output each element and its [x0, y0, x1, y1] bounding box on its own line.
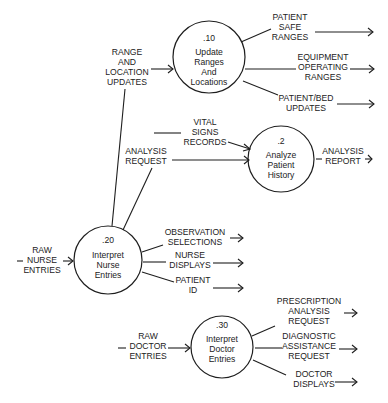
flow-label-line: OPERATING: [298, 62, 348, 72]
flow-label-line: DISPLAYS: [169, 260, 211, 270]
process-30-number: .30: [216, 320, 228, 330]
flow-label-line: AND: [118, 57, 136, 67]
flow-label-line: ANALYSIS: [125, 146, 167, 156]
flow-label-line: REQUEST: [125, 156, 167, 166]
flow-diagnostic-assistance-request: DIAGNOSTIC ASSISTANCE REQUEST: [255, 331, 357, 361]
flow-label-line: DOCTOR: [129, 341, 166, 351]
process-2-analyze-patient-history: .2 Analyze Patient History: [248, 126, 314, 192]
process-20-label-line: Entries: [95, 270, 122, 280]
data-flow-diagram: .10 Update Ranges And Locations .2 Analy…: [0, 0, 388, 403]
flow-range-location-updates: RANGE AND LOCATION UPDATES: [105, 47, 173, 226]
flow-label-line: SELECTIONS: [168, 237, 223, 247]
flow-prescription-analysis-request: PRESCRIPTION ANALYSIS REQUEST: [252, 296, 357, 336]
flow-label-line: RANGE: [112, 47, 143, 57]
flow-label-line: NURSE: [175, 250, 205, 260]
process-10-number: .10: [203, 33, 215, 43]
flow-label-line: ANALYSIS: [288, 306, 330, 316]
flow-label-line: REQUEST: [288, 351, 330, 361]
process-10-update-ranges: .10 Update Ranges And Locations: [173, 21, 245, 93]
flow-label-line: RAW: [138, 331, 159, 341]
flow-raw-nurse-entries: RAW NURSE ENTRIES: [17, 245, 73, 275]
flow-vital-signs-records: VITAL SIGNS RECORDS: [154, 117, 250, 151]
flow-label-line: ASSISTANCE: [282, 341, 336, 351]
flow-label-line: SIGNS: [192, 127, 219, 137]
flow-label-line: PRESCRIPTION: [277, 296, 341, 306]
flow-label-line: VITAL: [193, 117, 216, 127]
process-30-label-line: Interpret: [206, 334, 239, 344]
process-2-label-line: Analyze: [266, 150, 297, 160]
flow-label-line: DIAGNOSTIC: [282, 331, 335, 341]
flow-doctor-displays: DOCTOR DISPLAYS: [253, 360, 357, 389]
flow-label-line: PATIENT: [272, 12, 308, 22]
flow-analysis-report: ANALYSIS REPORT: [316, 146, 372, 166]
flow-nurse-displays: NURSE DISPLAYS: [143, 250, 243, 270]
flow-patient-id: PATIENT ID: [142, 272, 243, 295]
process-30-label-line: Entries: [209, 354, 236, 364]
flow-analysis-request: ANALYSIS REQUEST: [123, 146, 249, 230]
flow-label-line: REQUEST: [288, 316, 330, 326]
flow-label-line: ANALYSIS: [322, 146, 364, 156]
flow-label-line: PATIENT/BED: [278, 93, 333, 103]
flow-label-line: NURSE: [27, 255, 57, 265]
flow-label-line: SAFE: [279, 22, 302, 32]
process-10-label-line: And: [201, 67, 217, 77]
flow-label-line: UPDATES: [107, 77, 147, 87]
flow-patient-bed-updates: PATIENT/BED UPDATES: [243, 81, 374, 113]
process-30-label-line: Doctor: [209, 344, 234, 354]
process-20-label-line: Interpret: [92, 250, 125, 260]
flow-equipment-operating-ranges: EQUIPMENT OPERATING RANGES: [245, 52, 374, 82]
flow-label-line: ID: [189, 285, 198, 295]
process-10-label-line: Update: [195, 47, 223, 57]
flow-observation-selections: OBSERVATION SELECTIONS: [142, 227, 243, 252]
flow-label-line: RAW: [32, 245, 53, 255]
flow-label-line: EQUIPMENT: [297, 52, 349, 62]
flow-patient-safe-ranges: PATIENT SAFE RANGES: [241, 12, 373, 42]
process-10-label-line: Ranges: [194, 57, 224, 67]
process-2-number: .2: [277, 136, 284, 146]
process-10-label-line: Locations: [191, 77, 228, 87]
flow-label-line: DOCTOR: [295, 369, 332, 379]
flow-raw-doctor-entries: RAW DOCTOR ENTRIES: [118, 331, 190, 361]
process-20-number: .20: [102, 235, 114, 245]
process-20-interpret-nurse-entries: .20 Interpret Nurse Entries: [74, 226, 142, 294]
flow-label-line: PATIENT: [175, 275, 211, 285]
process-2-label-line: Patient: [268, 160, 295, 170]
process-2-label-line: History: [268, 170, 295, 180]
flow-label-line: RECORDS: [184, 137, 227, 147]
flow-label-line: OBSERVATION: [165, 227, 226, 237]
flow-label-line: RANGES: [305, 72, 342, 82]
process-30-interpret-doctor-entries: .30 Interpret Doctor Entries: [191, 316, 253, 378]
flow-label-line: LOCATION: [105, 67, 148, 77]
flow-label-line: UPDATES: [286, 103, 326, 113]
process-20-label-line: Nurse: [97, 260, 120, 270]
flow-label-line: ENTRIES: [129, 351, 167, 361]
flow-label-line: REPORT: [325, 156, 361, 166]
flow-label-line: DISPLAYS: [293, 379, 335, 389]
flow-label-line: RANGES: [272, 32, 309, 42]
flow-label-line: ENTRIES: [23, 265, 61, 275]
